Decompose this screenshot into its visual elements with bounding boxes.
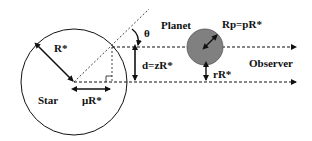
planet-offset-label: rR*	[213, 68, 232, 80]
planet-radius-label: Rp=pR*	[222, 18, 262, 30]
theta-arc	[132, 29, 138, 45]
offset-label: μR*	[82, 94, 102, 106]
observer-label: Observer	[249, 57, 293, 69]
planet-label: Planet	[161, 19, 191, 31]
right-angle-mark	[106, 76, 112, 82]
theta-label: θ	[144, 27, 150, 39]
star-label: Star	[38, 94, 58, 106]
planet-disk	[187, 29, 223, 65]
star-radius-label: R*	[54, 42, 68, 54]
transit-geometry-diagram: R* Star μR* θ d=zR* Planet Rp=pR* rR* Ob…	[0, 0, 312, 141]
angle-ray	[74, 9, 149, 82]
distance-label: d=zR*	[142, 59, 173, 71]
